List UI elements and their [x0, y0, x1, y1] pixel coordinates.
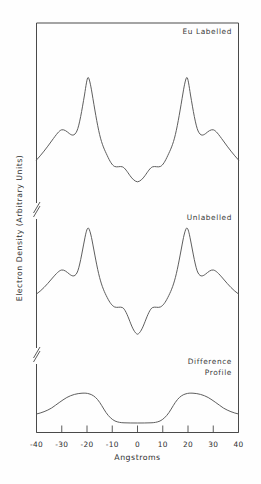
x-tick-label-10: 10 [158, 440, 168, 449]
x-tick-label-30: 30 [208, 440, 218, 449]
y-axis-break-lower [33, 347, 40, 364]
x-tick-label--20: -20 [81, 440, 94, 449]
x-tick-label--40: -40 [30, 440, 43, 449]
x-tick-label--30: -30 [55, 440, 68, 449]
x-tick-label--10: -10 [106, 440, 119, 449]
curve-eu-labelled [37, 77, 239, 181]
x-tick-label-0: 0 [135, 440, 140, 449]
electron-density-plot: Eu Labelled Unlabelled Difference Profil… [0, 0, 261, 484]
y-axis-break-upper [33, 202, 40, 219]
x-axis-ticks [37, 426, 239, 433]
x-tick-labels: -40 -30 -20 -10 0 10 20 30 40 [30, 440, 244, 449]
curve-difference-profile [37, 393, 239, 423]
panel-label-difference-line1: Difference [188, 357, 232, 366]
panel-label-unlabelled: Unlabelled [187, 213, 232, 222]
curve-unlabelled [37, 228, 239, 334]
figure-root: Eu Labelled Unlabelled Difference Profil… [0, 0, 261, 484]
y-axis-title: Electron Density (Arbitrary Units) [15, 155, 24, 302]
x-tick-label-20: 20 [183, 440, 193, 449]
panel-label-eu-labelled: Eu Labelled [182, 27, 232, 36]
x-tick-label-40: 40 [233, 440, 243, 449]
x-axis-title: Angstroms [114, 453, 160, 462]
panel-label-difference-line2: Profile [205, 368, 232, 377]
